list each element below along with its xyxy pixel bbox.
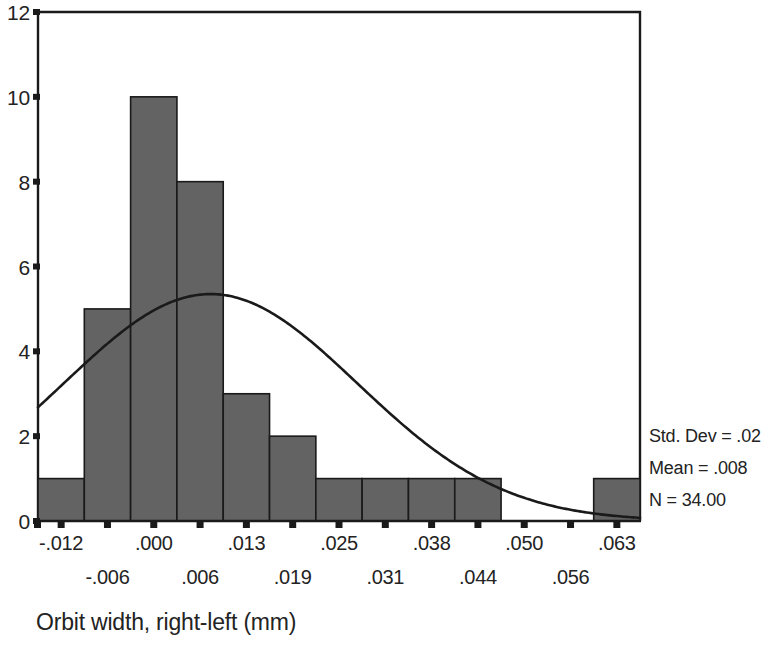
histogram-bar xyxy=(131,97,177,521)
histogram-chart: 0 2 4 6 8 10 12 -.012 -.006 .000 .006 .0… xyxy=(0,0,773,650)
y-axis-tick-label: 0 xyxy=(0,511,30,532)
x-axis-tick-label: -.006 xyxy=(72,567,142,587)
y-axis-tick-mark xyxy=(33,9,40,15)
y-axis-tick-label: 6 xyxy=(0,257,30,278)
y-axis-tick-mark xyxy=(33,179,40,185)
x-axis-tick-mark xyxy=(613,522,620,528)
y-axis-tick-mark xyxy=(33,94,40,100)
x-axis-tick-label: .038 xyxy=(397,533,467,553)
y-axis-tick-label: 12 xyxy=(0,2,30,23)
y-axis-tick-mark xyxy=(33,348,40,354)
x-axis-tick-mark xyxy=(150,522,157,528)
x-axis-tick-label: .050 xyxy=(489,533,559,553)
histogram-bar xyxy=(177,182,223,521)
sample-size-annotation: N = 34.00 xyxy=(649,491,726,509)
x-axis-tick-label: -.012 xyxy=(26,533,96,553)
x-axis-tick-mark xyxy=(104,522,111,528)
histogram-bar xyxy=(362,479,408,521)
y-axis-tick-label: 2 xyxy=(0,426,30,447)
histogram-bar xyxy=(408,479,454,521)
x-axis-tick-label: .006 xyxy=(165,567,235,587)
x-axis-tick-label: .000 xyxy=(119,533,189,553)
x-axis-tick-label: .025 xyxy=(304,533,374,553)
histogram-bar xyxy=(316,479,362,521)
x-axis-tick-label: .063 xyxy=(582,533,652,553)
x-axis-tick-label: .056 xyxy=(536,567,606,587)
x-axis-origin-tick xyxy=(34,522,41,528)
histogram-bar xyxy=(84,309,130,521)
y-axis-tick-label: 4 xyxy=(0,341,30,362)
plot-canvas xyxy=(0,0,773,650)
x-axis-tick-mark xyxy=(289,522,296,528)
x-axis-tick-mark xyxy=(567,522,574,528)
x-axis-tick-mark xyxy=(474,522,481,528)
x-axis-title: Orbit width, right-left (mm) xyxy=(36,611,296,634)
histogram-bar xyxy=(38,479,84,521)
x-axis-tick-mark xyxy=(197,522,204,528)
x-axis-tick-mark xyxy=(428,522,435,528)
x-axis-tick-label: .013 xyxy=(211,533,281,553)
x-axis-tick-label: .019 xyxy=(258,567,328,587)
y-axis-tick-mark xyxy=(33,433,40,439)
histogram-bar xyxy=(270,436,316,521)
x-axis-tick-mark xyxy=(243,522,250,528)
x-axis-tick-mark xyxy=(521,522,528,528)
x-axis-tick-mark xyxy=(382,522,389,528)
x-axis-tick-label: .044 xyxy=(443,567,513,587)
y-axis-tick-mark xyxy=(33,264,40,270)
std-dev-annotation: Std. Dev = .02 xyxy=(649,427,761,445)
mean-annotation: Mean = .008 xyxy=(649,459,747,477)
x-axis-tick-mark xyxy=(58,522,65,528)
y-axis-tick-label: 8 xyxy=(0,172,30,193)
x-axis-tick-label: .031 xyxy=(350,567,420,587)
x-axis-tick-mark xyxy=(336,522,343,528)
histogram-bar xyxy=(223,394,269,521)
y-axis-tick-label: 10 xyxy=(0,87,30,108)
